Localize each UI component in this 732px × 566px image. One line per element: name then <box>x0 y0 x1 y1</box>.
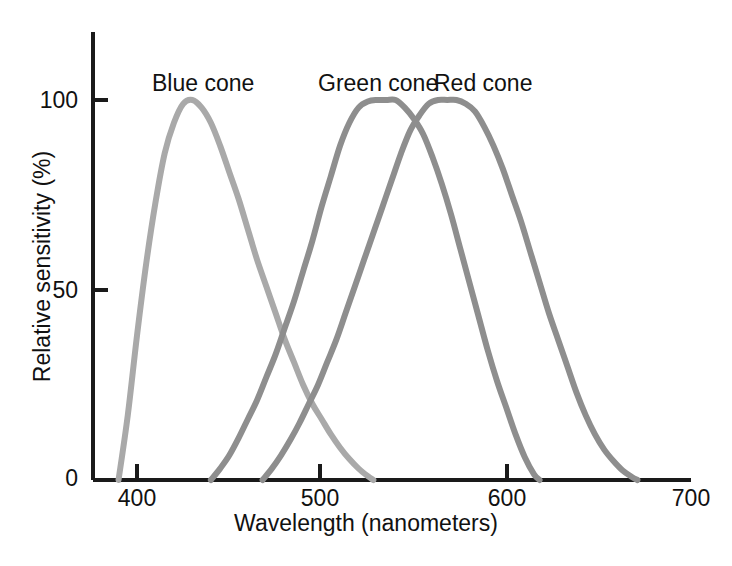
x-axis-title: Wavelength (nanometers) <box>0 512 732 535</box>
x-tick-label-600: 600 <box>488 487 526 510</box>
curve-green-cone <box>211 99 540 480</box>
x-tick-label-400: 400 <box>118 487 156 510</box>
curve-red-cone <box>263 100 638 480</box>
y-axis-title: Relative sensitivity (%) <box>31 107 54 427</box>
series-label-green-cone: Green cone <box>318 72 438 95</box>
series-label-red-cone: Red cone <box>434 72 532 95</box>
cone-sensitivity-figure: 100 50 0 400 500 600 700 Blue cone Green… <box>0 0 732 566</box>
x-tick-label-700: 700 <box>672 487 710 510</box>
series-label-blue-cone: Blue cone <box>152 72 254 95</box>
x-tick-label-500: 500 <box>301 487 339 510</box>
y-tick-label-0: 0 <box>30 467 78 490</box>
